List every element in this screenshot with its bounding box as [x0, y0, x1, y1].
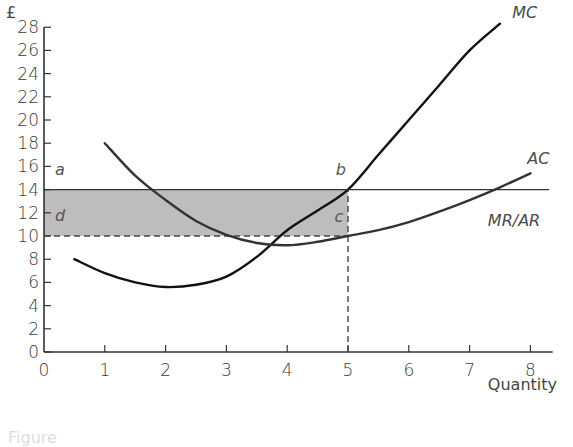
x-tick-label: 2	[160, 360, 171, 380]
y-tick-label: 12	[17, 203, 39, 223]
y-tick-label: 22	[17, 87, 39, 107]
y-tick-label: 0	[28, 342, 39, 362]
y-axis-title: £	[6, 3, 16, 22]
y-tick-label: 28	[17, 17, 39, 37]
x-tick-label: 5	[343, 360, 354, 380]
x-tick-label: 0	[39, 360, 50, 380]
x-tick-label: 7	[464, 360, 475, 380]
curve-label-ac: AC	[526, 149, 550, 168]
y-tick-label: 20	[17, 110, 39, 130]
y-tick-label: 18	[17, 133, 39, 153]
y-tick-label: 26	[17, 40, 39, 60]
profit-rectangle	[44, 190, 348, 236]
curve-label-mr-ar: MR/AR	[488, 211, 540, 230]
curve-mc	[74, 24, 500, 287]
x-axis-title: Quantity	[488, 375, 557, 394]
figure-caption: Figure	[8, 428, 57, 447]
y-tick-label: 24	[17, 64, 39, 84]
point-label-d: d	[55, 206, 66, 225]
y-tick-label: 14	[17, 180, 39, 200]
curve-label-mc: MC	[512, 3, 538, 22]
x-tick-label: 3	[221, 360, 232, 380]
curves	[44, 24, 549, 287]
y-tick-label: 6	[28, 272, 39, 292]
y-tick-label: 2	[28, 319, 39, 339]
x-tick-label: 1	[99, 360, 110, 380]
x-tick-label: 6	[403, 360, 414, 380]
point-label-b: b	[336, 160, 346, 179]
point-label-a: a	[55, 160, 65, 179]
x-tick-label: 4	[282, 360, 293, 380]
y-tick-label: 4	[28, 296, 39, 316]
profit-shaded-area	[44, 190, 348, 236]
point-label-c: c	[335, 207, 344, 226]
y-tick-label: 10	[17, 226, 39, 246]
y-tick-label: 8	[28, 249, 39, 269]
y-tick-label: 16	[17, 156, 39, 176]
